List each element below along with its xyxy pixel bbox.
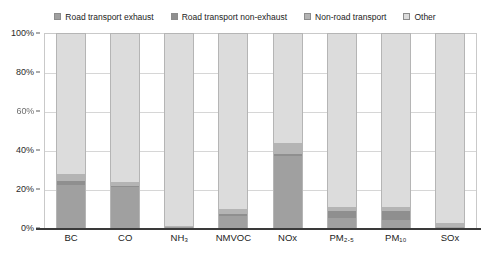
y-axis-tick-label: 20% (16, 184, 34, 194)
bar-group-pm2-5[interactable] (315, 33, 369, 228)
legend-entry[interactable]: Road transport non-exhaust (171, 12, 287, 22)
legend-swatch-icon (171, 13, 178, 20)
x-axis: BCCONH₃NMVOCNOxPM₂.₅PM₁₀SOx (44, 232, 477, 252)
bar-segment[interactable] (328, 211, 356, 219)
bar-segment[interactable] (219, 34, 247, 209)
bar-segment[interactable] (57, 34, 85, 174)
bar-group-pm10[interactable] (369, 33, 423, 228)
bar-segment[interactable] (274, 34, 302, 143)
bar-segment[interactable] (328, 218, 356, 228)
x-axis-tick-label: NH₃ (152, 232, 206, 252)
legend-swatch-icon (54, 13, 61, 20)
x-axis-tick-label: PM₁₀ (369, 232, 423, 252)
bar-segment[interactable] (382, 211, 410, 221)
bar-segment[interactable] (274, 143, 302, 155)
x-axis-tick-label: NMVOC (206, 232, 260, 252)
y-axis-tick-mark (36, 150, 40, 151)
stacked-bar[interactable] (164, 33, 194, 228)
chart-legend: Road transport exhaustRoad transport non… (0, 9, 490, 24)
stacked-bar[interactable] (273, 33, 303, 228)
stacked-bar[interactable] (218, 33, 248, 228)
legend-label: Other (414, 12, 435, 22)
y-axis-tick-label: 60% (17, 106, 34, 116)
legend-entry[interactable]: Non-road transport (304, 12, 386, 22)
bar-segment[interactable] (57, 185, 85, 228)
x-axis-tick-label: PM₂.₅ (315, 232, 369, 252)
y-axis: 100%80%60%40%20%0% (0, 33, 40, 228)
bar-segment[interactable] (111, 187, 139, 228)
stacked-bar[interactable] (56, 33, 86, 228)
y-axis-tick-mark (36, 33, 40, 34)
legend-entry[interactable]: Road transport exhaust (54, 12, 153, 22)
stacked-bar-chart: Road transport exhaustRoad transport non… (0, 0, 490, 258)
legend-swatch-icon (304, 13, 311, 20)
bar-segment[interactable] (219, 216, 247, 228)
x-axis-baseline (36, 228, 481, 230)
x-axis-tick-label: BC (44, 232, 98, 252)
stacked-bar[interactable] (110, 33, 140, 228)
y-axis-tick-mark (36, 111, 40, 112)
legend-label: Road transport exhaust (65, 12, 153, 22)
y-axis-tick-label: 100% (11, 28, 34, 38)
bar-group-bc[interactable] (44, 33, 98, 228)
x-axis-tick-label: NOx (261, 232, 315, 252)
legend-label: Non-road transport (315, 12, 386, 22)
y-axis-tick-label: 40% (16, 145, 34, 155)
bar-group-co[interactable] (98, 33, 152, 228)
legend-label: Road transport non-exhaust (182, 12, 287, 22)
bar-segment[interactable] (57, 174, 85, 182)
stacked-bar[interactable] (327, 33, 357, 228)
x-axis-tick-label: SOx (423, 232, 477, 252)
bar-group-nox[interactable] (261, 33, 315, 228)
bar-group-nmvoc[interactable] (206, 33, 260, 228)
y-axis-tick-mark (36, 189, 40, 190)
stacked-bar[interactable] (381, 33, 411, 228)
bar-group-sox[interactable] (423, 33, 477, 228)
legend-entry[interactable]: Other (403, 12, 435, 22)
bar-segment[interactable] (382, 34, 410, 207)
bars-layer (44, 33, 477, 228)
bar-segment[interactable] (274, 156, 302, 228)
stacked-bar[interactable] (435, 33, 465, 228)
y-axis-tick-label: 80% (16, 67, 34, 77)
bar-segment[interactable] (382, 220, 410, 228)
bar-segment[interactable] (111, 34, 139, 182)
bar-segment[interactable] (328, 34, 356, 207)
bar-segment[interactable] (165, 34, 193, 226)
bar-segment[interactable] (436, 34, 464, 223)
legend-swatch-icon (403, 13, 410, 20)
x-axis-tick-label: CO (98, 232, 152, 252)
y-axis-tick-mark (36, 72, 40, 73)
bar-group-nh3[interactable] (152, 33, 206, 228)
y-axis-tick-label: 0% (21, 223, 34, 233)
